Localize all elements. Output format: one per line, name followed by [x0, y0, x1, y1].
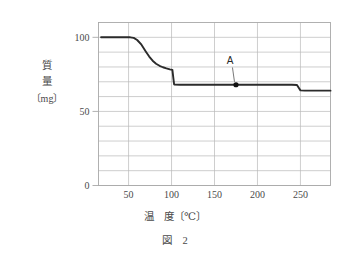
grid-lines: [99, 23, 331, 186]
annotation-a: A: [227, 55, 239, 87]
x-tick-label: 100: [164, 189, 179, 200]
figure-container: A 50100150200250 050100 質 量 〔mg〕 温 度〔℃〕 …: [0, 0, 350, 260]
x-tick-label: 200: [250, 189, 265, 200]
y-tick-label: 50: [80, 106, 90, 117]
y-tick-label: 0: [85, 180, 90, 191]
x-tick-label: 150: [207, 189, 222, 200]
x-tick-label: 50: [124, 189, 134, 200]
y-axis-title-line-1: 質: [24, 58, 70, 74]
y-axis-title-line-2: 量: [24, 74, 70, 90]
y-axis-title: 質 量 〔mg〕: [24, 58, 70, 106]
x-axis-title: 温 度〔℃〕: [0, 208, 350, 223]
y-tick-label: 100: [75, 32, 90, 43]
x-tick-label: 250: [293, 189, 308, 200]
y-axis-title-unit: 〔mg〕: [24, 91, 70, 107]
figure-caption: 図 2: [0, 232, 350, 247]
x-axis-tick-labels: 50100150200250: [124, 189, 308, 200]
data-curve: [101, 37, 330, 90]
y-axis-tick-labels: 050100: [75, 32, 99, 191]
annotation-label-a: A: [227, 55, 234, 66]
